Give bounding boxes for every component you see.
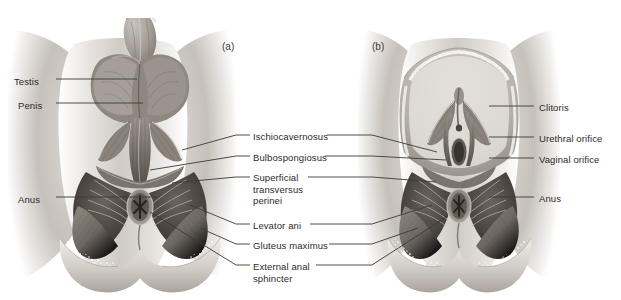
label-ischiocavernosus: Ischiocavernosus <box>253 131 328 143</box>
anatomy-figure: (a) (b) Testis Penis Anus Ischiocavernos… <box>0 0 621 300</box>
label-anus-male: Anus <box>18 194 40 206</box>
label-penis: Penis <box>18 100 42 112</box>
perineum-illustrations <box>0 0 621 300</box>
panel-label-a: (a) <box>222 41 234 52</box>
female-perineum-illustration <box>358 18 560 292</box>
label-superficial-transversus-perinei: Superficial transversus perinei <box>253 172 303 207</box>
label-gluteus-maximus: Gluteus maximus <box>253 240 328 252</box>
panel-label-b: (b) <box>372 41 384 52</box>
label-external-anal-sphincter: External anal sphincter <box>253 261 310 284</box>
label-urethral-orifice: Urethral orifice <box>539 133 602 145</box>
label-bulbospongiosus: Bulbospongiosus <box>253 152 327 164</box>
male-perineum-illustration <box>8 7 236 292</box>
label-testis: Testis <box>14 76 39 88</box>
label-vaginal-orifice: Vaginal orifice <box>539 154 599 166</box>
label-anus-female: Anus <box>539 193 561 205</box>
label-clitoris: Clitoris <box>539 102 569 114</box>
scrotum-testes <box>91 54 190 123</box>
label-levator-ani: Levator ani <box>253 220 301 232</box>
